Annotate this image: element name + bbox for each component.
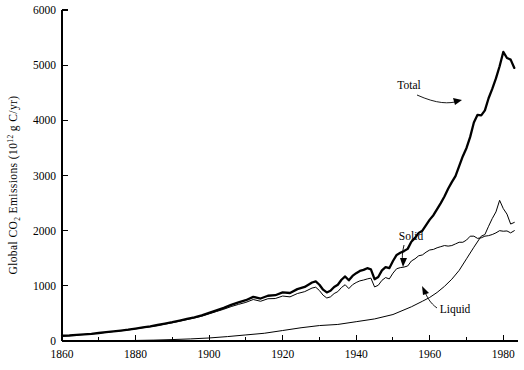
y-tick-label: 6000 xyxy=(33,4,56,16)
annotation-label-total: Total xyxy=(397,79,420,91)
x-tick-label: 1920 xyxy=(271,348,294,360)
x-tick-label: 1960 xyxy=(418,348,441,360)
y-axis-label-prefix: Global CO xyxy=(7,221,19,275)
svg-text:Global CO2 Emissions (1012 g C: Global CO2 Emissions (1012 g C/yr) xyxy=(6,95,22,274)
y-axis-label: Global CO2 Emissions (1012 g C/yr) xyxy=(6,95,22,274)
y-axis-label-middle: Emissions (10 xyxy=(7,143,20,217)
y-axis-ticks: 0100020003000400050006000 xyxy=(33,4,68,347)
annotation-arrow-total xyxy=(417,95,459,103)
x-tick-label: 1900 xyxy=(198,348,221,360)
y-tick-label: 0 xyxy=(50,335,56,347)
series-line-solid xyxy=(62,231,514,336)
annotation-total: Total xyxy=(397,79,462,105)
x-axis-ticks: 1860188019001920194019601980 xyxy=(51,335,516,360)
annotation-label-liquid: Liquid xyxy=(440,303,471,316)
x-tick-label: 1980 xyxy=(492,348,515,360)
y-axis-label-sup: 12 xyxy=(6,134,15,142)
y-tick-label: 2000 xyxy=(33,225,56,237)
x-tick-label: 1940 xyxy=(345,348,368,360)
series-line-total xyxy=(62,52,514,336)
annotation-arrowhead-liquid xyxy=(422,286,429,295)
annotation-arrowhead-total xyxy=(453,98,462,105)
co2-emissions-chart: Global CO2 Emissions (1012 g C/yr) 01000… xyxy=(0,0,524,370)
y-tick-label: 3000 xyxy=(33,170,56,182)
chart-canvas: Global CO2 Emissions (1012 g C/yr) 01000… xyxy=(0,0,524,370)
y-tick-label: 4000 xyxy=(33,114,56,126)
annotation-label-solid: Solid xyxy=(399,230,424,242)
y-tick-label: 1000 xyxy=(33,280,56,292)
y-axis-label-suffix: g C/yr) xyxy=(7,95,20,134)
series-line-liquid xyxy=(99,200,515,341)
x-tick-label: 1880 xyxy=(124,348,147,360)
annotation-arrowhead-solid xyxy=(400,258,407,267)
y-tick-label: 5000 xyxy=(33,59,56,71)
annotation-liquid: Liquid xyxy=(422,286,471,316)
x-tick-label: 1860 xyxy=(51,348,74,360)
